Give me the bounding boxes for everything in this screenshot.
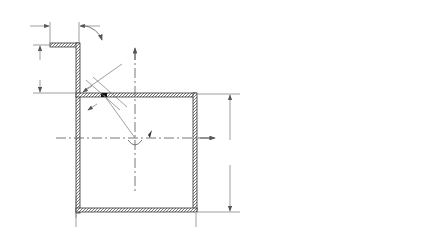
radius-line [104, 95, 135, 138]
ds-indicator [83, 64, 127, 110]
dim-L1 [33, 45, 76, 93]
torque-arrow-icon [148, 130, 152, 138]
dim-b [197, 94, 240, 212]
torque-arrow-top [82, 25, 102, 40]
cross-section [50, 43, 197, 213]
dim-Lw [30, 22, 100, 43]
torsion-thin-wall-diagram [0, 0, 448, 227]
